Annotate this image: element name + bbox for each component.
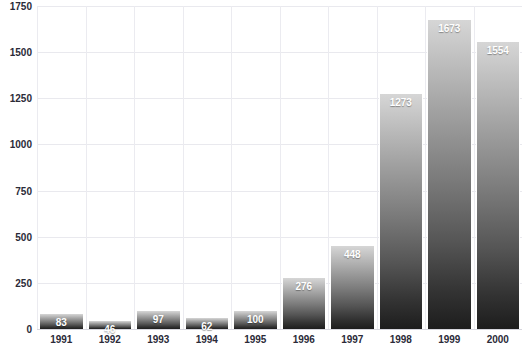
plot-area: 83469762100276448127316731554 (37, 6, 522, 329)
y-axis-tick-label: 1000 (10, 139, 32, 150)
bar-1991[interactable]: 83 (39, 314, 84, 329)
bar-1997[interactable]: 448 (330, 246, 375, 329)
bar-1999[interactable]: 1673 (427, 20, 472, 329)
bar-value-label: 100 (234, 314, 277, 325)
bar-value-label: 97 (137, 314, 180, 325)
y-axis: 02505007501000125015001750 (0, 0, 37, 353)
bar-slot: 62 (183, 6, 232, 329)
x-axis-tick-label: 1996 (280, 334, 329, 345)
y-axis-tick-label: 750 (15, 185, 32, 196)
bar-value-label: 276 (283, 281, 326, 292)
bar-slot: 100 (231, 6, 280, 329)
x-axis-tick-label: 1993 (134, 334, 183, 345)
bar-1993[interactable]: 97 (136, 311, 181, 329)
bar-slot: 97 (134, 6, 183, 329)
y-axis-tick-label: 250 (15, 277, 32, 288)
y-axis-tick-label: 500 (15, 231, 32, 242)
x-axis-tick-label: 1992 (86, 334, 135, 345)
bar-1998[interactable]: 1273 (379, 94, 424, 329)
y-axis-tick-label: 1750 (10, 1, 32, 12)
bar-slot: 46 (86, 6, 135, 329)
bar-value-label: 448 (331, 249, 374, 260)
bar-series: 83469762100276448127316731554 (37, 6, 522, 329)
x-axis-tick-label: 1998 (377, 334, 426, 345)
x-axis: 1991199219931994199519961997199819992000 (37, 331, 522, 353)
bar-value-label: 1673 (428, 23, 471, 34)
bar-slot: 448 (328, 6, 377, 329)
bar-slot: 83 (37, 6, 86, 329)
bar-2000[interactable]: 1554 (476, 42, 521, 329)
bar-value-label: 1554 (477, 45, 520, 56)
bar-value-label: 83 (40, 317, 83, 328)
x-axis-line (37, 329, 522, 330)
bar-slot: 1673 (425, 6, 474, 329)
bar-1996[interactable]: 276 (282, 278, 327, 329)
x-axis-tick-label: 1995 (231, 334, 280, 345)
x-axis-tick-label: 2000 (474, 334, 522, 345)
x-axis-tick-label: 1997 (328, 334, 377, 345)
bar-slot: 276 (280, 6, 329, 329)
y-axis-tick-label: 1500 (10, 47, 32, 58)
bar-1992[interactable]: 46 (88, 321, 133, 329)
y-axis-tick-label: 0 (26, 324, 32, 335)
bar-1994[interactable]: 62 (185, 318, 230, 329)
y-axis-tick-label: 1250 (10, 93, 32, 104)
bar-1995[interactable]: 100 (233, 311, 278, 329)
x-axis-tick-label: 1999 (425, 334, 474, 345)
bar-value-label: 1273 (380, 97, 423, 108)
x-axis-tick-label: 1991 (37, 334, 86, 345)
bar-slot: 1554 (474, 6, 522, 329)
x-axis-tick-label: 1994 (183, 334, 232, 345)
bar-chart: 02505007501000125015001750 8346976210027… (0, 0, 522, 353)
bar-slot: 1273 (377, 6, 426, 329)
